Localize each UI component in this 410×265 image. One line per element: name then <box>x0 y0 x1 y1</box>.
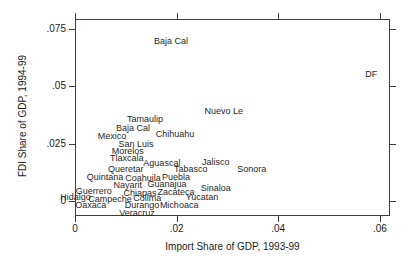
x-tick-label: .06 <box>373 224 387 234</box>
x-tick-label: .02 <box>170 224 184 234</box>
data-point-label: Baja Cal <box>154 37 188 46</box>
data-point-label: Nuevo Le <box>205 107 244 116</box>
y-axis-title: FDI Share of GDP, 1994-99 <box>17 55 28 177</box>
data-point-label: Veracruz <box>119 209 155 218</box>
x-tick-label: .04 <box>271 224 285 234</box>
x-tick-bottom <box>177 216 178 222</box>
data-point-label: DF <box>365 70 377 79</box>
data-point-label: Oaxaca <box>75 200 106 209</box>
x-tick-bottom <box>75 216 76 222</box>
x-tick-top <box>278 13 279 19</box>
data-point-label: Tlaxcala <box>110 153 144 162</box>
y-tick-right <box>390 86 396 87</box>
y-tick-left <box>69 86 75 87</box>
x-tick-top <box>380 13 381 19</box>
y-tick-label: .025 <box>47 139 66 149</box>
x-tick-top <box>75 13 76 19</box>
y-tick-right <box>390 201 396 202</box>
x-tick-bottom <box>278 216 279 222</box>
y-tick-label: .075 <box>47 24 66 34</box>
x-tick-bottom <box>380 216 381 222</box>
y-tick-label: .05 <box>52 81 66 91</box>
y-tick-right <box>390 144 396 145</box>
scatter-figure: FDI Share of GDP, 1994-99 0.02.04.060.02… <box>0 0 410 265</box>
data-point-label: Chihuahu <box>156 130 195 139</box>
y-tick-left <box>69 29 75 30</box>
x-tick-label: 0 <box>72 224 78 234</box>
x-tick-top <box>177 13 178 19</box>
data-point-label: Sonora <box>237 164 266 173</box>
y-tick-left <box>69 144 75 145</box>
y-tick-right <box>390 29 396 30</box>
x-axis-title: Import Share of GDP, 1993-99 <box>75 241 390 252</box>
data-point-label: Michoaca <box>160 200 199 209</box>
